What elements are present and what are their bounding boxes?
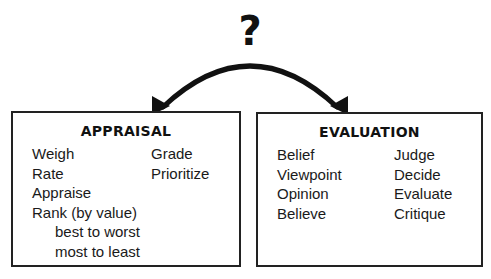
list-item: Weigh: [32, 144, 140, 164]
evaluation-title: EVALUATION: [258, 123, 481, 141]
list-subitem: most to least: [32, 242, 140, 262]
appraisal-box: APPRAISAL Weigh Rate Appraise Rank (by v…: [11, 111, 241, 267]
evaluation-box: EVALUATION Belief Viewpoint Opinion Beli…: [256, 112, 483, 267]
list-item: Belief: [277, 145, 342, 165]
list-item: Viewpoint: [277, 165, 342, 185]
evaluation-column-1: Belief Viewpoint Opinion Believe: [277, 145, 342, 223]
list-item: Decide: [394, 165, 452, 185]
appraisal-column-2: Grade Prioritize: [151, 144, 209, 183]
list-item: Appraise: [32, 183, 140, 203]
evaluation-column-2: Judge Decide Evaluate Critique: [394, 145, 452, 223]
list-item: Opinion: [277, 184, 342, 204]
list-item: Evaluate: [394, 184, 452, 204]
appraisal-column-1: Weigh Rate Appraise Rank (by value) best…: [32, 144, 140, 261]
list-item: Grade: [151, 144, 209, 164]
list-item: Critique: [394, 204, 452, 224]
list-item: Prioritize: [151, 164, 209, 184]
list-subitem: best to worst: [32, 222, 140, 242]
list-item: Judge: [394, 145, 452, 165]
list-item: Rate: [32, 164, 140, 184]
list-item: Rank (by value): [32, 203, 140, 223]
list-item: Believe: [277, 204, 342, 224]
appraisal-title: APPRAISAL: [13, 122, 239, 140]
